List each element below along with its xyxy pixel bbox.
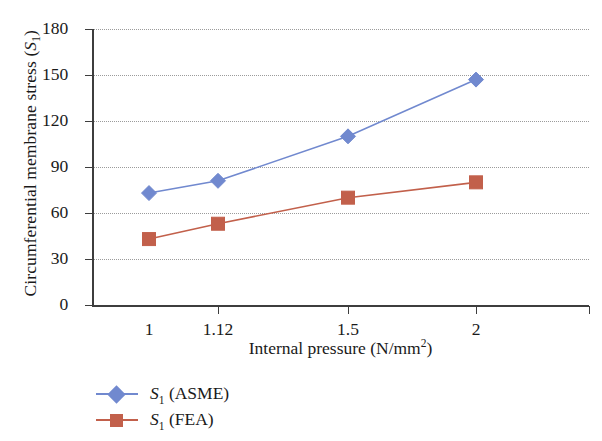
data-point-diamond (142, 186, 157, 201)
legend-label-asme-symbol: S (150, 383, 159, 403)
y-tick-label: 60 (8, 202, 72, 223)
x-axis-title-prefix: Internal pressure (N/mm (249, 338, 421, 358)
legend-label-fea-symbol: S (150, 409, 159, 429)
data-point-square (212, 217, 225, 230)
y-tick-label: 30 (8, 248, 72, 269)
series-line-asme (149, 80, 476, 193)
plot-area: 0306090120150180 11.121.52 (92, 29, 589, 305)
data-point-diamond (341, 129, 356, 144)
diamond-marker-icon (107, 385, 125, 403)
legend-swatch-fea (96, 411, 138, 429)
y-tick-label: 120 (8, 110, 72, 131)
x-tick-mark (476, 306, 477, 314)
y-tick-label: 90 (8, 156, 72, 177)
legend-item-asme[interactable]: S1 (ASME) (96, 381, 229, 407)
y-axis-title-symbol: S (20, 42, 40, 51)
y-tick-mark (85, 75, 92, 76)
y-tick-mark (85, 121, 92, 122)
y-tick-mark (85, 167, 92, 168)
legend-label-asme-suffix: (ASME) (169, 383, 229, 403)
x-tick-mark (218, 306, 219, 314)
x-tick-mark (348, 306, 349, 314)
y-tick-label: 0 (8, 294, 72, 315)
x-axis-title: Internal pressure (N/mm2) (92, 337, 589, 359)
legend-label-asme: S1 (ASME) (150, 383, 229, 406)
y-tick-mark (85, 213, 92, 214)
x-tick-mark (589, 306, 590, 314)
data-series-layer (92, 29, 589, 306)
y-tick-mark (85, 259, 92, 260)
legend-label-fea-subscript: 1 (159, 419, 165, 431)
y-tick-label: 150 (8, 64, 72, 85)
x-axis-title-suffix: ) (426, 338, 432, 358)
data-point-diamond (469, 72, 484, 87)
legend-label-asme-subscript: 1 (159, 393, 165, 405)
series-line-fea (149, 182, 476, 239)
y-tick-label: 180 (8, 18, 72, 39)
data-point-square (342, 191, 355, 204)
data-point-square (470, 176, 483, 189)
legend-swatch-asme (96, 385, 138, 403)
legend-label-fea-suffix: (FEA) (169, 409, 214, 429)
y-tick-mark (85, 29, 92, 30)
legend-label-fea: S1 (FEA) (150, 409, 214, 432)
data-point-diamond (211, 173, 226, 188)
square-marker-icon (110, 414, 123, 427)
legend-item-fea[interactable]: S1 (FEA) (96, 407, 229, 433)
data-point-square (143, 233, 156, 246)
y-tick-mark (85, 305, 92, 306)
chart-figure: Circumferential membrane stress (S1) 030… (0, 0, 602, 441)
chart-legend: S1 (ASME) S1 (FEA) (96, 381, 229, 433)
